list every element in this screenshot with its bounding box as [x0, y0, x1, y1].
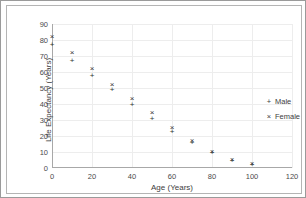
- legend-label: Male: [273, 94, 291, 109]
- y-axis-title: Life Expectancy (Years): [44, 57, 53, 141]
- data-point-female: ×: [147, 109, 157, 119]
- data-point-female: ×: [67, 49, 77, 59]
- data-point-female: ×: [127, 95, 137, 105]
- legend: +Male×Female: [265, 94, 300, 124]
- data-point-female: ×: [187, 137, 197, 147]
- legend-item-female: ×Female: [265, 109, 300, 124]
- legend-item-male: +Male: [265, 94, 300, 109]
- x-axis-title: Age (Years): [52, 183, 292, 192]
- data-point-female: ×: [207, 148, 217, 158]
- image-frame: 0102030405060708090 020406080100120 ++++…: [0, 0, 306, 198]
- legend-label: Female: [273, 109, 300, 124]
- data-point-female: ×: [167, 124, 177, 134]
- legend-marker-icon: +: [265, 94, 273, 109]
- data-point-female: ×: [247, 160, 257, 170]
- data-point-female: ×: [107, 81, 117, 91]
- legend-marker-icon: ×: [265, 109, 273, 124]
- data-point-female: ×: [227, 156, 237, 166]
- data-point-female: ×: [87, 65, 97, 75]
- chart-card: 0102030405060708090 020406080100120 ++++…: [6, 5, 302, 194]
- data-point-female: ×: [47, 33, 57, 43]
